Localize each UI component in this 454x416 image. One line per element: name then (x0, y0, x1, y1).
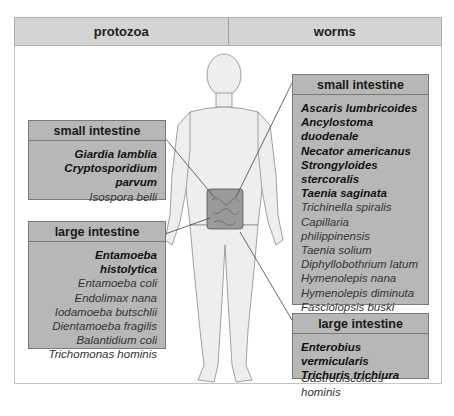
organism-major: Taenia saginata (301, 186, 420, 200)
box-title: small intestine (293, 75, 428, 95)
organism-major: Giardia lamblia (37, 147, 157, 161)
organism-major: Strongyloides stercoralis (301, 158, 420, 186)
organism-minor: Hymenolepis nana (301, 271, 420, 285)
organism-major: Ascaris lumbricoides (301, 101, 420, 115)
head-shape (207, 54, 241, 96)
organism-major: Necator americanus (301, 144, 420, 158)
organism-minor: Trichinella spiralis (301, 200, 420, 214)
organism-minor: Isospora belli (37, 190, 157, 204)
organism-minor: Dientamoeba fragilis (37, 319, 157, 333)
organism-list: Giardia lamblia Cryptosporidium parvum I… (29, 141, 165, 210)
box-title: large intestine (29, 222, 165, 242)
organism-list: Entamoeba histolytica Entamoeba coli End… (29, 242, 165, 368)
organism-minor: Taenia solium (301, 243, 420, 257)
box-title: large intestine (293, 314, 428, 334)
worms-large-intestine-box: large intestine Enterobius vermicularis … (292, 313, 429, 379)
worms-small-intestine-box: small intestine Ascaris lumbricoides Anc… (292, 74, 429, 305)
organism-major: Ancylostoma duodenale (301, 115, 420, 143)
organism-minor: Entamoeba coli (37, 276, 157, 290)
protozoa-large-intestine-box: large intestine Entamoeba histolytica En… (28, 221, 166, 349)
organism-minor: Trichomonas hominis (37, 347, 157, 361)
organism-major: Entamoeba histolytica (37, 248, 157, 276)
organism-minor: Diphyllobothrium latum (301, 257, 420, 271)
organism-list: Enterobius vermicularis Trichuris trichi… (293, 334, 428, 389)
organism-minor: Fasciolopsis buski (301, 300, 420, 314)
protozoa-small-intestine-box: small intestine Giardia lamblia Cryptosp… (28, 120, 166, 200)
organism-minor: Iodamoeba butschlii (37, 305, 157, 319)
organism-minor: Capillaria philippinensis (301, 215, 420, 243)
organism-major: Trichuris trichiura (301, 368, 420, 382)
box-title: small intestine (29, 121, 165, 141)
organism-minor: Balantidium coli (37, 333, 157, 347)
organism-major: Enterobius vermicularis (301, 340, 420, 368)
organism-minor: Hymenolepis diminuta (301, 286, 420, 300)
organism-major: Cryptosporidium parvum (37, 161, 157, 189)
organism-minor: Endolimax nana (37, 291, 157, 305)
